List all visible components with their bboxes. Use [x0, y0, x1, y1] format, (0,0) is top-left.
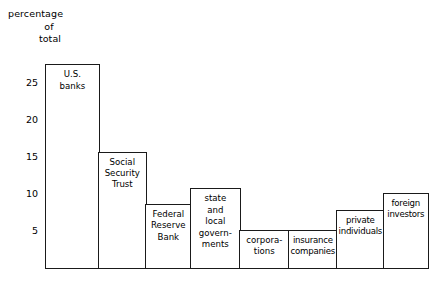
- bar-label-6: insurancecompanies: [289, 235, 337, 258]
- bar-label-line: govern-: [192, 228, 239, 239]
- bar-label-line: investors: [385, 209, 427, 220]
- plot-area: 510152025 U.S.banksSocialSecurityTrustFe…: [45, 0, 427, 286]
- bar-label-line: state: [192, 193, 239, 204]
- bar-label-line: Social: [100, 157, 145, 168]
- bar-label-7: privateindividuals: [337, 215, 384, 238]
- bar-label-line: banks: [47, 81, 98, 92]
- bar-label-line: foreign: [385, 198, 427, 209]
- bar-label-4: stateandlocalgovern-ments: [191, 193, 240, 250]
- bar-label-line: ments: [192, 239, 239, 250]
- y-tick-20: 20: [0, 115, 38, 125]
- bar-label-5: corpora-tions: [240, 235, 289, 258]
- bar-label-line: Trust: [100, 179, 145, 190]
- bar-label-line: U.S.: [47, 69, 98, 80]
- y-tick-25: 25: [0, 78, 38, 88]
- bar-label-8: foreigninvestors: [384, 198, 428, 221]
- bar-label-line: Bank: [147, 232, 190, 243]
- bar-label-line: insurance: [290, 235, 336, 246]
- bar-label-line: Federal: [147, 209, 190, 220]
- bar-2: SocialSecurityTrust: [98, 152, 147, 269]
- bar-5: corpora-tions: [239, 230, 290, 269]
- bar-3: FederalReserveBank: [145, 204, 192, 269]
- bar-label-line: and: [192, 205, 239, 216]
- bar-label-2: SocialSecurityTrust: [99, 157, 146, 191]
- bar-chart: percentage of total 510152025 U.S.banksS…: [0, 0, 443, 286]
- bar-label-3: FederalReserveBank: [146, 209, 191, 243]
- y-tick-5: 5: [0, 226, 38, 236]
- bar-label-line: private: [338, 215, 383, 226]
- bar-8: foreigninvestors: [383, 193, 429, 269]
- bar-1: U.S.banks: [45, 64, 100, 269]
- bar-label-line: corpora-: [241, 235, 288, 246]
- bar-label-line: individuals: [338, 226, 383, 237]
- bar-label-line: Reserve: [147, 220, 190, 231]
- y-tick-10: 10: [0, 189, 38, 199]
- bar-label-1: U.S.banks: [46, 69, 99, 92]
- bar-label-line: Security: [100, 168, 145, 179]
- bar-label-line: local: [192, 216, 239, 227]
- bar-4: stateandlocalgovern-ments: [190, 188, 241, 269]
- bar-label-line: tions: [241, 246, 288, 257]
- bar-label-line: companies: [290, 246, 336, 257]
- y-axis-tick-labels: 510152025: [0, 0, 38, 286]
- bar-6: insurancecompanies: [288, 230, 338, 269]
- y-tick-15: 15: [0, 152, 38, 162]
- bar-7: privateindividuals: [336, 210, 385, 269]
